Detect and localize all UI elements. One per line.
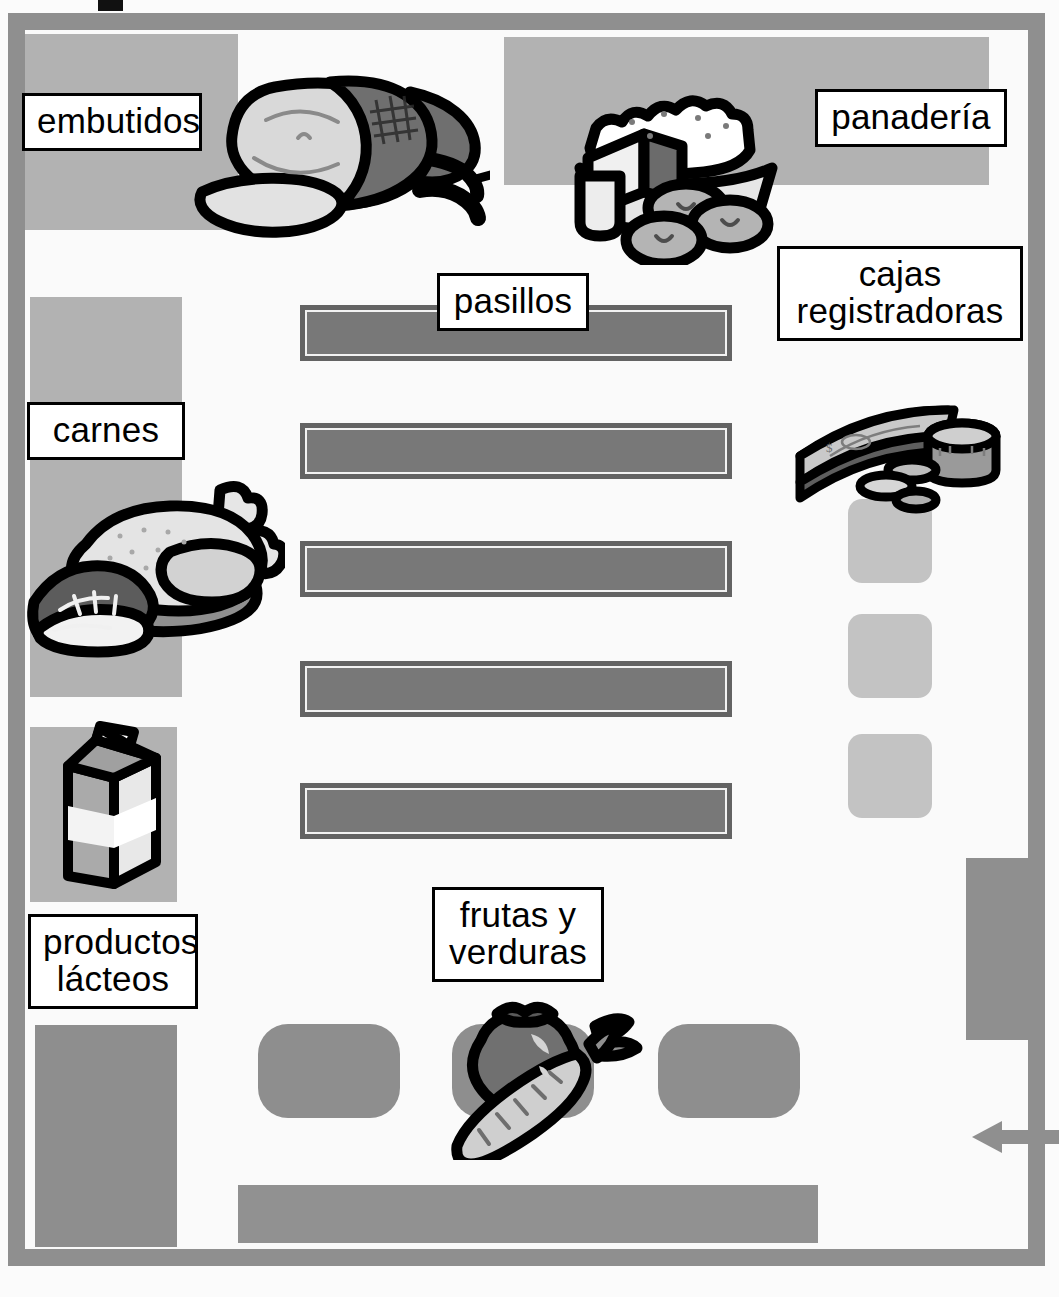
freezer-block: [35, 1025, 177, 1247]
produce-bin-3: [658, 1024, 800, 1118]
milk-carton-icon: [52, 720, 172, 890]
aisle-shelf-3: [300, 541, 732, 597]
meat-icon: [20, 470, 285, 660]
pie-icon: [558, 80, 798, 265]
cropped-text-artifact: [98, 0, 123, 11]
label-produce: frutas y verduras: [432, 887, 604, 982]
produce-bin-1: [258, 1024, 400, 1118]
svg-text:$: $: [826, 440, 833, 455]
vegetables-icon: [435, 990, 675, 1160]
label-registers: cajas registradoras: [777, 246, 1023, 341]
checkout-counter-3: [848, 734, 932, 818]
ham-icon: [180, 62, 490, 242]
label-aisles: pasillos: [437, 273, 589, 331]
left-arrow-icon: [972, 1121, 1002, 1153]
aisle-shelf-2: [300, 423, 732, 479]
aisle-shelf-5: [300, 783, 732, 839]
money-icon: $: [790, 398, 1020, 533]
aisle-shelf-4: [300, 661, 732, 717]
front-counter: [238, 1185, 818, 1243]
label-meat: carnes: [27, 402, 185, 460]
label-dairy: productos lácteos: [28, 914, 198, 1009]
store-map-page: $: [0, 0, 1059, 1297]
label-deli: embutidos: [22, 93, 202, 151]
label-bakery: panadería: [815, 89, 1007, 147]
left-arrow-icon-shaft: [1000, 1130, 1059, 1144]
entrance-wall-block: [966, 858, 1038, 1040]
checkout-counter-2: [848, 614, 932, 698]
